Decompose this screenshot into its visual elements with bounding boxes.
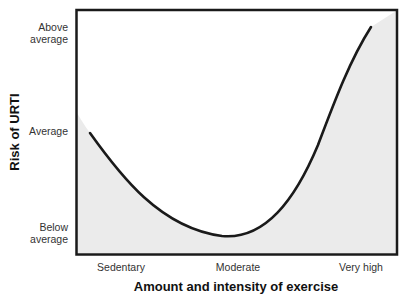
y-tick-above-average: Above average [30,21,68,45]
x-axis-title: Amount and intensity of exercise [134,279,338,294]
y-axis-title: Risk of URTI [7,93,22,170]
x-tick-sedentary: Sedentary [97,261,145,273]
y-tick-average: Average [29,125,68,137]
x-tick-very-high: Very high [339,261,383,273]
y-tick-below-average: Below average [30,221,68,245]
x-tick-moderate: Moderate [216,261,260,273]
shaded-area [77,11,396,253]
